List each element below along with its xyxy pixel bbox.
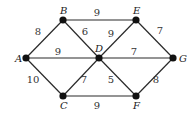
edge-weight-d-g: 7	[131, 46, 137, 57]
edge-weight-f-g: 8	[153, 74, 159, 85]
edge-weight-d-e: 9	[108, 28, 114, 39]
node-label-e: E	[132, 5, 141, 16]
edge-weight-c-d: 7	[81, 74, 87, 85]
edge-weight-e-g: 7	[157, 25, 163, 36]
node-e	[132, 16, 139, 23]
edge-weight-a-d: 9	[55, 46, 61, 57]
node-f	[132, 92, 139, 99]
node-label-d: D	[94, 43, 103, 54]
node-g	[169, 54, 176, 61]
node-label-f: F	[132, 100, 141, 111]
node-label-g: G	[179, 53, 187, 64]
edge-weight-a-c: 10	[27, 74, 40, 85]
edge-weight-d-f: 5	[108, 74, 114, 85]
edge-weight-c-f: 9	[94, 100, 100, 111]
node-a	[22, 54, 29, 61]
node-label-a: A	[14, 53, 22, 64]
edge-weight-a-b: 8	[35, 26, 41, 37]
edge-d-f	[99, 58, 136, 96]
edge-e-g	[136, 20, 173, 58]
edge-weight-b-d: 6	[82, 26, 88, 37]
node-label-c: C	[60, 100, 68, 111]
node-b	[59, 16, 66, 23]
node-c	[59, 92, 66, 99]
edge-weight-b-e: 9	[94, 7, 100, 18]
weighted-graph: 8969977107598 ABCDEFG	[0, 0, 195, 118]
node-label-b: B	[59, 5, 67, 16]
node-d	[95, 54, 102, 61]
